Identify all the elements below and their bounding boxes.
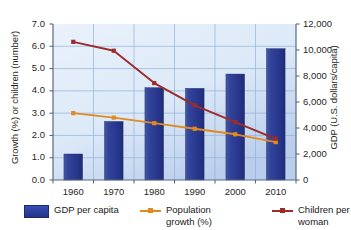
data-point-marker [71, 40, 75, 44]
y-axis-left-tick-label: 0.0 [17, 174, 45, 185]
data-point-marker [71, 111, 75, 115]
orange-line-swatch-icon [140, 205, 161, 216]
y-axis-left-tick-label: 2.0 [17, 129, 45, 140]
y-axis-right-tick-label: 12,000 [303, 18, 343, 29]
data-point-marker [193, 103, 197, 107]
data-point-marker [233, 132, 237, 136]
y-axis-right-tick-label: 8,000 [303, 70, 343, 81]
data-point-marker [233, 120, 237, 124]
legend-item-gdp-per-capita[interactable]: GDP per capita [24, 204, 119, 218]
bar-2000 [226, 74, 245, 180]
data-point-marker [152, 121, 156, 125]
y-axis-right-tick-label: 4,000 [303, 122, 343, 133]
y-axis-left-tick-label: 4.0 [17, 84, 45, 95]
y-axis-right-tick-label: 2,000 [303, 148, 343, 159]
x-axis-tick-label: 1990 [175, 186, 215, 197]
x-axis-tick-label: 2000 [215, 186, 255, 197]
bar-2010 [266, 49, 285, 180]
y-axis-left-tick-label: 1.0 [17, 151, 45, 162]
red-line-swatch-icon [272, 205, 293, 216]
y-axis-left-tick-label: 7.0 [17, 18, 45, 29]
bar-rect [266, 49, 285, 180]
data-point-marker [274, 137, 278, 141]
x-axis-tick-label: 1980 [134, 186, 174, 197]
bar-1970 [104, 122, 123, 181]
bar-swatch-icon [24, 205, 49, 218]
legend-item-children-per-woman[interactable]: Children per woman [272, 204, 351, 227]
legend-label-children: Children per woman [298, 204, 351, 227]
bar-1960 [64, 154, 83, 180]
legend-item-population-growth[interactable]: Population growth (%) [140, 204, 242, 227]
bar-rect [145, 88, 164, 180]
chart-container: Growth (%) or children (number) GDP (U.S… [0, 0, 351, 230]
bar-rect [226, 74, 245, 180]
x-axis-tick-label: 2010 [256, 186, 296, 197]
y-axis-left-tick-label: 5.0 [17, 62, 45, 73]
data-point-marker [152, 81, 156, 85]
data-point-marker [112, 49, 116, 53]
y-axis-left-tick-label: 3.0 [17, 107, 45, 118]
bar-rect [104, 122, 123, 181]
data-point-marker [193, 127, 197, 131]
x-axis-tick-label: 1960 [53, 186, 93, 197]
y-axis-left-tick-label: 6.0 [17, 40, 45, 51]
bar-rect [64, 154, 83, 180]
bar-1980 [145, 88, 164, 180]
y-axis-right-tick-label: 6,000 [303, 96, 343, 107]
data-point-marker [112, 116, 116, 120]
legend-label-gdp: GDP per capita [54, 204, 119, 216]
legend-label-population: Population growth (%) [166, 204, 242, 227]
chart-legend: GDP per capita Population growth (%) Chi… [10, 204, 351, 230]
y-axis-right-tick-label: 10,000 [303, 44, 343, 55]
x-axis-tick-label: 1970 [94, 186, 134, 197]
y-axis-right-tick-label: 0 [303, 174, 343, 185]
